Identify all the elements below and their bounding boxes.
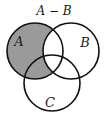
label-b: B: [79, 35, 90, 50]
label-a: A: [13, 34, 23, 49]
label-c: C: [45, 95, 55, 110]
diagram-title: A − B: [35, 4, 71, 18]
venn-diagram: A − B A B C: [0, 0, 106, 119]
